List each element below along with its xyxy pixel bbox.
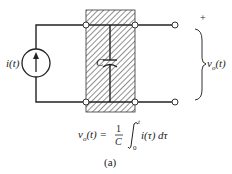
left-bottom-wire [36, 77, 86, 102]
fraction-denominator: C [115, 137, 122, 147]
circuit-schematic [0, 0, 232, 174]
figure-caption: (a) [104, 157, 116, 168]
terminal-out-bottom [172, 99, 178, 105]
terminal-mid-bottom [132, 99, 138, 105]
plus-sign: + [200, 13, 206, 23]
circuit-diagram: i(t) C + vo(t) vo(t) = 1 C t 0 i(τ) dτ (… [0, 0, 232, 174]
terminal-out-top [172, 22, 178, 28]
output-voltage-label: vo(t) [207, 58, 226, 72]
fraction-numerator: 1 [116, 124, 121, 134]
integrand: i(τ) dτ [141, 130, 168, 141]
source-label: i(t) [6, 58, 19, 69]
terminal-left-top [83, 22, 89, 28]
equation-lhs: vo(t) = [78, 129, 107, 143]
left-top-wire [36, 25, 86, 49]
integral-upper-limit: t [138, 119, 140, 126]
integral-lower-limit: 0 [133, 145, 137, 152]
terminal-mid-top [132, 22, 138, 28]
terminal-left-bottom [83, 99, 89, 105]
capacitor-label: C [96, 57, 103, 68]
output-brace [195, 29, 206, 100]
